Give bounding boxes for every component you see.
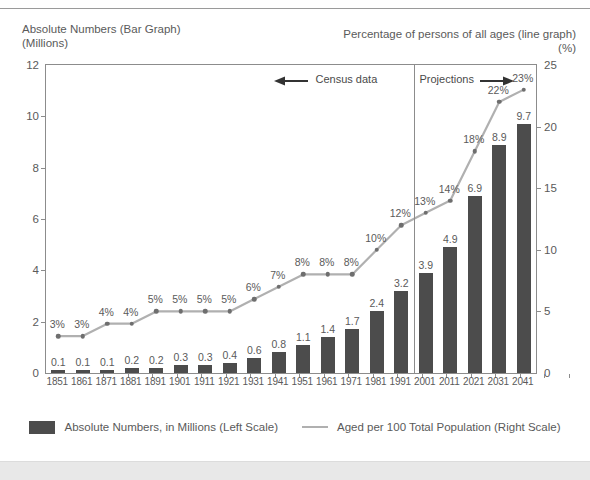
- bar-1931: [247, 358, 261, 373]
- line-value-label-1941: 7%: [270, 269, 285, 281]
- bar-1871: [100, 370, 114, 373]
- x-axis-tick-1861: 1861: [71, 376, 92, 387]
- bar-value-label-2021: 6.9: [467, 182, 482, 194]
- line-marker-1981: [375, 248, 380, 253]
- line-value-label-1881: 4%: [123, 306, 138, 318]
- line-value-label-1961: 8%: [319, 256, 334, 268]
- y-axis-right-tickmark: [536, 250, 541, 251]
- line-value-label-1971: 8%: [344, 256, 359, 268]
- line-value-label-1871: 4%: [99, 306, 114, 318]
- bar-1941: [272, 352, 286, 373]
- line-value-label-1951: 8%: [295, 256, 310, 268]
- y-axis-left-tick-6: 6: [33, 213, 39, 225]
- bar-value-label-1991: 3.2: [394, 277, 409, 289]
- x-axis-tick-2001: 2001: [414, 376, 435, 387]
- line-marker-1901: [179, 309, 184, 314]
- bar-1911: [198, 365, 212, 373]
- y-axis-right-tickmark: [536, 311, 541, 312]
- line-marker-1971: [350, 272, 355, 277]
- bar-1861: [76, 370, 90, 373]
- line-value-label-1861: 3%: [74, 318, 89, 330]
- bar-2011: [443, 247, 457, 373]
- x-axis-tick-2021: 2021: [463, 376, 484, 387]
- bar-2041: [517, 124, 531, 373]
- line-marker-1961: [326, 272, 331, 277]
- chart-title-left: Absolute Numbers (Bar Graph) (Millions): [22, 22, 181, 50]
- x-axis-tick-2041: 2041: [512, 376, 533, 387]
- bar-1981: [370, 311, 384, 373]
- y-axis-left-tickmark: [41, 168, 46, 169]
- y-axis-left-tick-10: 10: [26, 110, 39, 122]
- bar-value-label-1911: 0.3: [198, 351, 213, 363]
- line-marker-1871: [105, 321, 110, 326]
- line-value-label-2041: 23%: [512, 72, 533, 84]
- chart-legend: Absolute Numbers, in Millions (Left Scal…: [0, 415, 590, 439]
- bar-value-label-1921: 0.4: [222, 349, 237, 361]
- line-marker-1941: [277, 285, 282, 290]
- x-axis-tickmark: [569, 374, 570, 378]
- y-axis-right-tickmark: [536, 188, 541, 189]
- y-axis-left-tickmark: [41, 270, 46, 271]
- line-series-svg: [46, 65, 536, 373]
- x-axis-tick-1941: 1941: [267, 376, 288, 387]
- legend-item-bars: Absolute Numbers, in Millions (Left Scal…: [29, 421, 277, 434]
- bar-value-label-2041: 9.7: [516, 110, 531, 122]
- bar-1851: [51, 370, 65, 373]
- line-marker-1921: [228, 309, 233, 314]
- y-axis-left-tickmark: [41, 219, 46, 220]
- line-marker-1911: [203, 309, 208, 314]
- bar-2021: [468, 196, 482, 373]
- bar-value-label-1961: 1.4: [320, 323, 335, 335]
- line-value-label-2021: 18%: [463, 133, 484, 145]
- line-value-label-1911: 5%: [197, 293, 212, 305]
- bar-value-label-1891: 0.2: [149, 354, 164, 366]
- bar-1971: [345, 329, 359, 373]
- bar-value-label-1941: 0.8: [271, 338, 286, 350]
- line-marker-2001: [424, 211, 429, 216]
- line-marker-1891: [154, 309, 159, 314]
- bar-1881: [125, 368, 139, 373]
- y-axis-left-tickmark: [41, 116, 46, 117]
- line-value-label-1891: 5%: [148, 293, 163, 305]
- x-axis-tick-2011: 2011: [439, 376, 460, 387]
- bar-value-label-2011: 4.9: [443, 233, 458, 245]
- x-axis-tick-1851: 1851: [47, 376, 68, 387]
- x-axis-tick-1901: 1901: [169, 376, 190, 387]
- bar-value-label-1851: 0.1: [51, 356, 66, 368]
- x-axis-tick-1891: 1891: [145, 376, 166, 387]
- line-marker-1931: [252, 297, 257, 302]
- legend-item-line: Aged per 100 Total Population (Right Sca…: [302, 421, 561, 433]
- x-axis-tick-1991: 1991: [390, 376, 411, 387]
- y-axis-left-tick-8: 8: [33, 162, 39, 174]
- line-marker-2021: [473, 149, 478, 154]
- chart-title-right: Percentage of persons of all ages (line …: [343, 27, 576, 55]
- x-axis-tick-1881: 1881: [120, 376, 141, 387]
- bar-2031: [492, 145, 506, 373]
- bar-1901: [174, 365, 188, 373]
- line-marker-1861: [81, 334, 86, 339]
- line-marker-1851: [56, 334, 61, 339]
- bar-value-label-1971: 1.7: [345, 315, 360, 327]
- bar-value-label-1871: 0.1: [100, 356, 115, 368]
- projections-arrow-icon: [480, 75, 514, 87]
- line-value-label-2011: 14%: [439, 183, 460, 195]
- line-value-label-1931: 6%: [246, 281, 261, 293]
- line-marker-1951: [301, 272, 306, 277]
- x-axis-tick-1871: 1871: [96, 376, 117, 387]
- chart-title-right-unit: (%): [343, 41, 576, 55]
- x-axis-tick-1961: 1961: [316, 376, 337, 387]
- legend-line-swatch: [302, 426, 328, 428]
- bar-value-label-2001: 3.9: [418, 259, 433, 271]
- line-marker-2011: [448, 198, 453, 203]
- top-divider-rule: [0, 8, 590, 9]
- line-value-label-1901: 5%: [172, 293, 187, 305]
- x-axis-tick-2031: 2031: [488, 376, 509, 387]
- x-axis-tick-1951: 1951: [292, 376, 313, 387]
- line-value-label-2001: 13%: [414, 195, 435, 207]
- bar-1961: [321, 337, 335, 373]
- x-axis-tick-1921: 1921: [218, 376, 239, 387]
- annotation-projections: Projections: [420, 73, 474, 85]
- line-marker-1991: [399, 223, 404, 228]
- annotation-census-data: Census data: [316, 73, 378, 85]
- x-axis-tick-1981: 1981: [365, 376, 386, 387]
